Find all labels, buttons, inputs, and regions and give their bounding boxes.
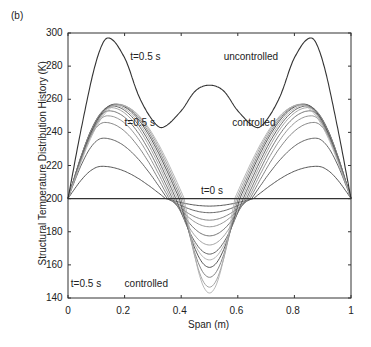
x-tick-label: 0 bbox=[65, 306, 71, 316]
controlled-curve bbox=[68, 106, 351, 254]
x-axis-label: Span (m) bbox=[188, 320, 229, 330]
y-tick-label: 260 bbox=[46, 94, 63, 104]
y-tick-label: 180 bbox=[46, 227, 63, 237]
x-tick-label: 1 bbox=[348, 306, 354, 316]
x-tick-label: 0.6 bbox=[229, 306, 243, 316]
x-tick-label: 0.8 bbox=[286, 306, 300, 316]
controlled-curve bbox=[68, 116, 351, 227]
controlled-curve bbox=[68, 138, 351, 213]
chart-annotation: controlled bbox=[125, 279, 168, 289]
uncontrolled-curve bbox=[68, 38, 351, 199]
chart-annotation: t=0.5 s bbox=[130, 52, 160, 62]
y-tick-label: 280 bbox=[46, 61, 63, 71]
x-tick-label: 0.2 bbox=[116, 306, 130, 316]
controlled-curve bbox=[68, 122, 351, 220]
y-tick-label: 300 bbox=[46, 28, 63, 38]
plot-frame bbox=[68, 33, 351, 298]
y-tick-label: 200 bbox=[46, 194, 63, 204]
controlled-curve bbox=[68, 108, 351, 246]
chart-annotation: uncontrolled bbox=[224, 52, 278, 62]
y-tick-label: 220 bbox=[46, 161, 63, 171]
y-tick-label: 240 bbox=[46, 127, 63, 137]
chart-annotation: controlled bbox=[232, 118, 275, 128]
y-tick-label: 140 bbox=[46, 293, 63, 303]
y-tick-label: 160 bbox=[46, 260, 63, 270]
chart-annotation: t=0.5 s bbox=[125, 118, 155, 128]
chart-annotation: t=0.5 s bbox=[71, 279, 101, 289]
controlled-curve bbox=[68, 111, 351, 236]
controlled-curve bbox=[68, 105, 351, 260]
x-tick-label: 0.4 bbox=[173, 306, 187, 316]
chart-annotation: t=0 s bbox=[201, 186, 223, 196]
